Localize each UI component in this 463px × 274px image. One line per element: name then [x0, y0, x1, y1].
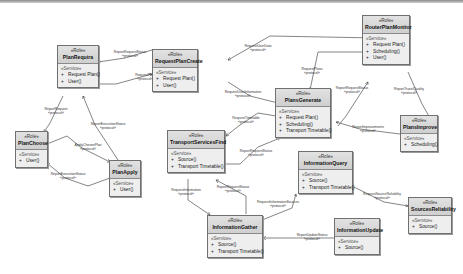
role-plan-requira[interactable]: «Role»PlanRequira «Service» +Request Pla… [57, 45, 99, 88]
conn-label: ReportRequestStatus«protocol» [217, 185, 249, 193]
conn-label: ReportExecutionStatus«protocol» [91, 122, 126, 130]
role-plan-choose[interactable]: «Role»PlanChoose «Service» +User() [15, 131, 48, 168]
role-name: SourcesReliability [411, 206, 449, 213]
role-name: InformationGather [210, 224, 260, 231]
role-name: RouterPlanMonitor [365, 24, 407, 31]
operation: +Source() [412, 224, 448, 231]
conn-label: ReportTravelQuality«protocol» [394, 87, 424, 95]
role-plans-improve[interactable]: «Role»PlansImprove «Service» +Scheduling… [400, 115, 438, 152]
conn-label: RequestUserData«protocol» [245, 44, 272, 52]
conn-label: ApplyChosenPlan«protocol» [75, 143, 102, 151]
conn-label: ReportRequestStatus«protocol» [114, 50, 146, 58]
conn-label: RequestInformation«protocol» [171, 188, 201, 196]
operation: +User() [366, 55, 406, 62]
conn-label: RequestInformationSources«protocol» [257, 200, 299, 208]
operation: +Transport Timetable() [211, 249, 259, 256]
role-information-update[interactable]: «Role»InformationUpdate «Service» +Sourc… [334, 218, 380, 255]
role-name: InformationQuery [301, 160, 350, 167]
role-request-plan-create[interactable]: «Role»RequestPlanCreate «Service» +Reque… [152, 49, 198, 92]
operation: +Transport Timetable() [171, 164, 221, 171]
conn-label: ReportImprovements«protocol» [352, 125, 384, 133]
conn-label: RequestSourceReliability«protocol» [363, 192, 401, 200]
role-router-plan-monitor[interactable]: «Role»RouterPlanMonitor «Service» +Reque… [362, 15, 410, 65]
operation: +Source() [338, 245, 376, 252]
conn-router-monitor-to-plans-improve [408, 72, 430, 118]
conn-label: ReportRequestStatus«protocol» [240, 149, 272, 157]
role-transport-services-find[interactable]: «Role»TransportServicesFind «Service» +S… [167, 130, 225, 173]
role-name: PlansGenerate [278, 97, 328, 104]
operation: +User() [19, 158, 44, 165]
role-name: PlanChoose [18, 140, 45, 147]
role-name: RequestPlanCreate [155, 58, 195, 65]
operation: +Transport Timetable() [279, 128, 327, 135]
conn-label: RequestPlans«protocol» [301, 67, 322, 75]
operation: +Scheduling() [404, 142, 434, 149]
role-plan-apply[interactable]: «Role»PlanApply «Service» +User() [109, 160, 141, 197]
conn-label: RequestUserInformation«protocol» [225, 90, 262, 98]
conn-label: ReportRequest«protocol» [45, 107, 68, 115]
role-name: PlanRequira [60, 54, 96, 61]
operation: +User() [156, 83, 194, 90]
role-name: TransportServicesFind [170, 139, 222, 146]
conn-transport-find-to-information-gather [188, 179, 210, 215]
role-name: PlanApply [112, 169, 138, 176]
operation: +User() [113, 187, 137, 194]
role-plans-generate[interactable]: «Role»PlansGenerate «Service» +Request P… [275, 88, 331, 138]
role-name: PlansImprove [403, 124, 435, 131]
role-name: InformationUpdate [337, 227, 377, 234]
operation: +User() [61, 79, 95, 86]
role-information-query[interactable]: «Role»InformationQuery «Service» +Source… [298, 151, 353, 194]
operation: +Transport Timetable() [302, 185, 349, 192]
conn-label: ReportUpdateStatus«protocol» [297, 233, 328, 241]
conn-label: ReportRequestStatus«protocol» [336, 86, 368, 94]
conn-label: RequestTimetable«protocol» [232, 116, 259, 124]
conn-label: ReportExecutionStatus«protocol» [51, 172, 86, 180]
role-information-gather[interactable]: «Role»InformationGather «Service» +Sourc… [207, 215, 263, 258]
role-sources-reliability[interactable]: «Role»SourcesReliability «Service» +Sour… [408, 197, 452, 234]
